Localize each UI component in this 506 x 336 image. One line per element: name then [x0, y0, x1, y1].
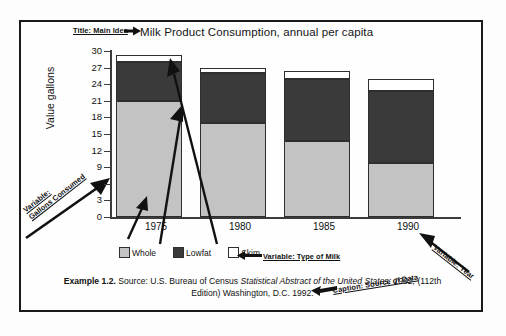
caption-example-label: Example 1.2. [64, 276, 116, 286]
y-axis-tick-24 [104, 84, 110, 85]
arrow-to-y-axis-icon [22, 176, 112, 242]
y-axis-tick-label-18: 18 [76, 112, 102, 121]
bar-segment-1985-lowfat[interactable] [284, 79, 350, 142]
y-axis-tick-15 [104, 134, 110, 135]
y-axis-tick-18 [104, 117, 110, 118]
legend-item-whole[interactable]: Whole [119, 247, 156, 258]
bar-segment-1990-skim[interactable] [368, 79, 434, 91]
y-axis-tick-12 [104, 151, 110, 152]
y-axis-tick-3 [104, 200, 110, 201]
bar-segment-1990-lowfat[interactable] [368, 91, 434, 163]
y-axis-title: Value gallons [44, 43, 56, 153]
y-axis-tick-9 [104, 167, 110, 168]
y-axis-tick-label-15: 15 [76, 129, 102, 138]
y-axis-tick-30 [104, 51, 110, 52]
y-axis-tick-label-12: 12 [76, 146, 102, 155]
bar-group-1985[interactable] [284, 51, 350, 217]
bar-segment-1985-skim[interactable] [284, 71, 350, 78]
y-axis-tick-label-27: 27 [76, 63, 102, 72]
chart-title: Milk Product Consumption, annual per cap… [140, 26, 373, 38]
y-axis-tick-27 [104, 68, 110, 69]
arrow-to-skim-segment-icon [160, 56, 222, 248]
y-axis-tick-label-30: 30 [76, 46, 102, 55]
arrow-to-x-axis-icon [417, 230, 475, 278]
arrow-to-caption-icon [310, 284, 338, 298]
bar-segment-1985-whole[interactable] [284, 141, 350, 217]
x-axis-label-1985: 1985 [287, 221, 361, 232]
square-swatch-icon-lowfat [173, 247, 184, 258]
square-swatch-icon-whole [119, 247, 130, 258]
caption-source-prefix: Source: U.S. Bureau of Census [116, 276, 241, 286]
arrow-to-title-icon [124, 25, 142, 37]
legend-label-lowfat: Lowfat [186, 248, 211, 258]
legend-label-whole: Whole [132, 248, 156, 258]
bar-group-1990[interactable] [368, 51, 434, 217]
y-axis-tick-21 [104, 101, 110, 102]
legend-item-lowfat[interactable]: Lowfat [173, 247, 211, 258]
arrow-to-legend-icon [236, 250, 262, 262]
y-axis-tick-label-24: 24 [76, 79, 102, 88]
bar-segment-1990-whole[interactable] [368, 163, 434, 217]
y-axis-tick-label-21: 21 [76, 96, 102, 105]
y-axis-tick-6 [104, 184, 110, 185]
y-axis-tick-0 [104, 217, 110, 218]
figure-page: Milk Product Consumption, annual per cap… [0, 0, 506, 336]
annotation-variable-type-of-milk: Variable: Type of Milk [263, 252, 340, 261]
